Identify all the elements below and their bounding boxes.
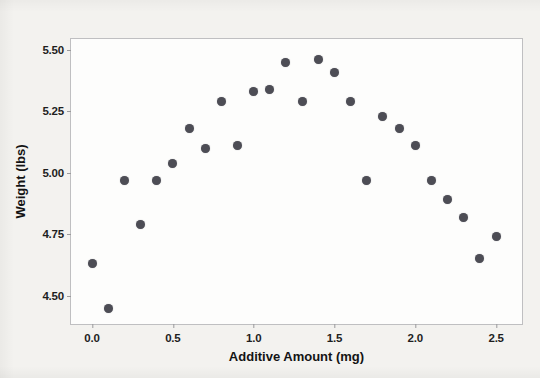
data-point [88, 259, 97, 268]
x-axis-tick-label: 2.5 [488, 324, 503, 344]
data-point [362, 176, 371, 185]
data-point [346, 97, 355, 106]
data-point [298, 97, 307, 106]
y-axis-label-text: Weight (lbs) [13, 144, 28, 218]
x-axis-tick-label: 0.5 [165, 324, 180, 344]
x-axis-tick-label: 0.0 [84, 324, 99, 344]
data-point [281, 58, 290, 67]
data-point [265, 85, 274, 94]
data-point [152, 176, 161, 185]
data-point [233, 141, 242, 150]
data-point [378, 112, 387, 121]
y-axis-tick-label: 5.25 [42, 105, 71, 117]
x-axis-label: Additive Amount (mg) [70, 349, 523, 364]
data-point [314, 55, 323, 64]
x-axis-tick-label: 2.0 [408, 324, 423, 344]
data-point [330, 68, 339, 77]
data-point [217, 97, 226, 106]
data-point [443, 195, 452, 204]
data-point [120, 176, 129, 185]
x-axis-tick-label: 1.5 [327, 324, 342, 344]
data-point [249, 87, 258, 96]
data-point [395, 124, 404, 133]
y-axis-tick-label: 5.50 [42, 44, 71, 56]
data-point [427, 176, 436, 185]
data-point [492, 232, 501, 241]
data-point [459, 213, 468, 222]
plot-area: 4.504.755.005.255.500.00.51.01.52.02.5 [70, 38, 523, 325]
data-point [475, 254, 484, 263]
data-point [185, 124, 194, 133]
y-axis-tick-label: 4.50 [42, 290, 71, 302]
y-axis-label: Weight (lbs) [10, 38, 30, 325]
data-point [104, 304, 113, 313]
data-point [168, 159, 177, 168]
scatter-chart-figure: Weight (lbs) 4.504.755.005.255.500.00.51… [0, 0, 540, 378]
data-point [201, 144, 210, 153]
data-point [136, 220, 145, 229]
data-point [411, 141, 420, 150]
y-axis-tick-label: 4.75 [42, 228, 71, 240]
y-axis-tick-label: 5.00 [42, 167, 71, 179]
x-axis-tick-label: 1.0 [246, 324, 261, 344]
